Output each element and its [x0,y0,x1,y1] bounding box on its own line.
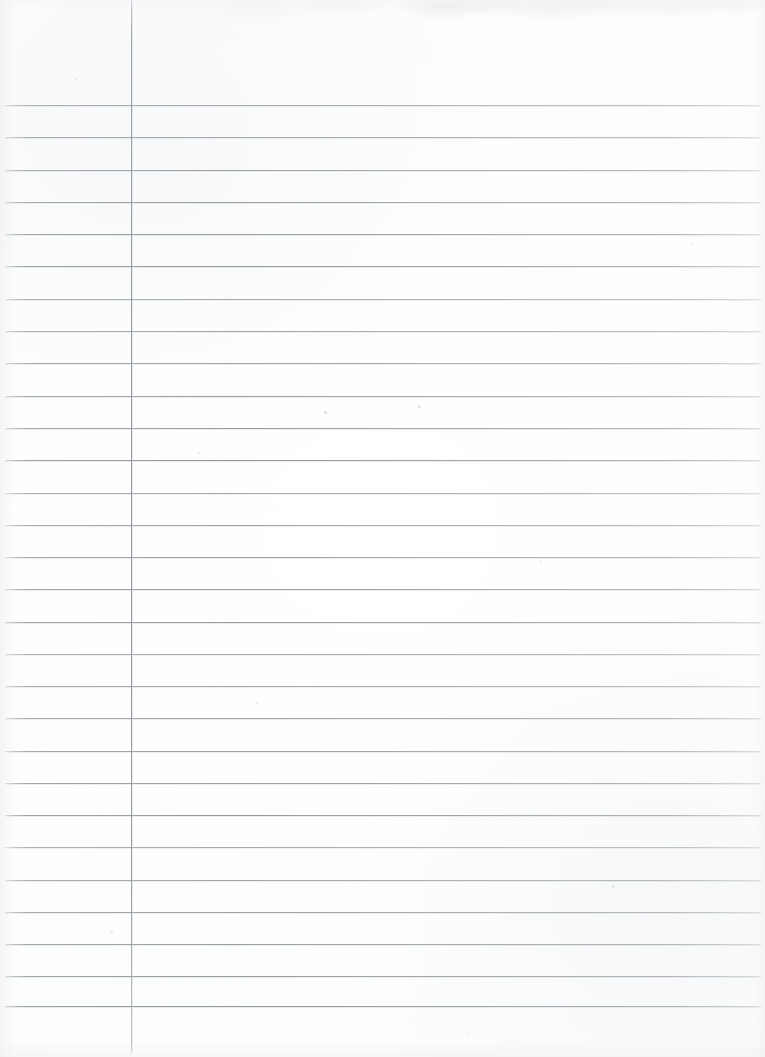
vertical-margin-line [131,0,132,1053]
rule-line [5,1006,761,1007]
page-text-content [140,112,740,992]
rule-line [5,105,761,106]
notebook-page [0,0,765,1057]
